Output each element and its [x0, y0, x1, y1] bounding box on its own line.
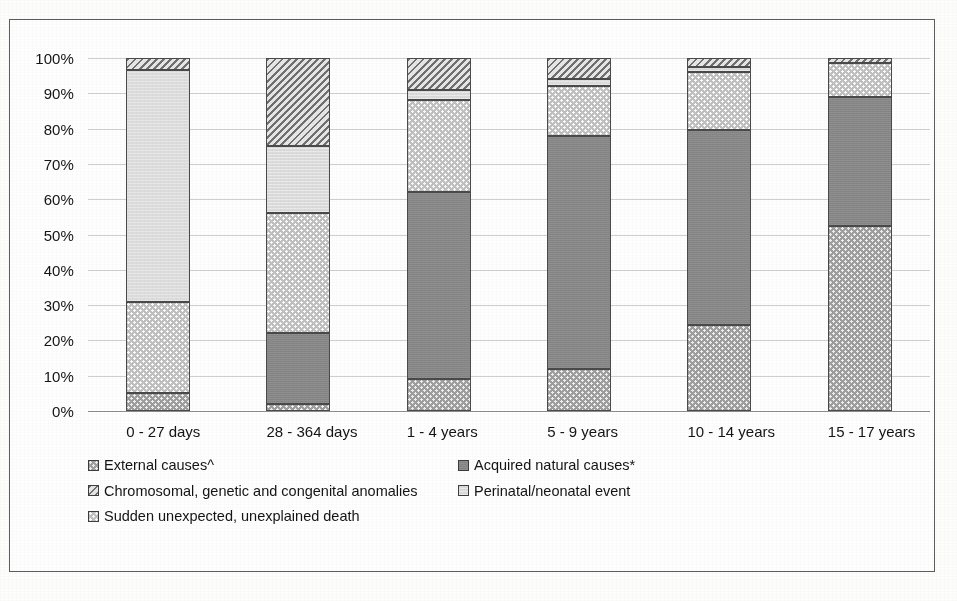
legend-item[interactable]: External causes^ — [88, 458, 458, 473]
legend-item[interactable]: Acquired natural causes* — [458, 458, 635, 473]
bar-segment-sudden[interactable] — [828, 63, 892, 97]
legend-row: Chromosomal, genetic and congenital anom… — [88, 484, 888, 499]
bar-stack — [126, 58, 190, 411]
bar-segment-perinatal[interactable] — [266, 146, 330, 213]
legend-item[interactable]: Chromosomal, genetic and congenital anom… — [88, 484, 458, 499]
bar-segment-sudden[interactable] — [266, 213, 330, 333]
bar-segment-sudden[interactable] — [687, 72, 751, 130]
legend-label: Perinatal/neonatal event — [474, 484, 630, 499]
bar-stack — [266, 58, 330, 411]
bar-segment-perinatal[interactable] — [547, 79, 611, 86]
x-axis-tick-label: 0 - 27 days — [126, 423, 190, 440]
y-axis-tick-label: 60% — [44, 191, 74, 208]
legend-label: Acquired natural causes* — [474, 458, 635, 473]
y-axis-tick-label: 20% — [44, 332, 74, 349]
y-axis-tick-label: 0% — [52, 403, 74, 420]
y-axis: 0%10%20%30%40%50%60%70%80%90%100% — [10, 58, 82, 411]
bar-segment-sudden[interactable] — [407, 100, 471, 192]
legend-row: Sudden unexpected, unexplained death — [88, 509, 888, 524]
legend-label: External causes^ — [104, 458, 214, 473]
bar-segment-acquired[interactable] — [407, 192, 471, 379]
bar-column[interactable] — [547, 58, 611, 411]
y-axis-tick-label: 90% — [44, 85, 74, 102]
bar-stack — [407, 58, 471, 411]
bar-segment-perinatal[interactable] — [687, 67, 751, 72]
x-axis-tick-label: 1 - 4 years — [407, 423, 471, 440]
chart-legend: External causes^Acquired natural causes*… — [88, 458, 888, 535]
bar-segment-acquired[interactable] — [266, 333, 330, 404]
bar-segment-sudden[interactable] — [126, 302, 190, 394]
bar-segment-chromosomal[interactable] — [687, 58, 751, 67]
x-axis-tick-label: 28 - 364 days — [266, 423, 330, 440]
bar-segment-sudden[interactable] — [547, 86, 611, 135]
bar-segment-external[interactable] — [407, 379, 471, 411]
legend-item[interactable]: Sudden unexpected, unexplained death — [88, 509, 458, 524]
bar-segment-acquired[interactable] — [828, 97, 892, 226]
y-axis-tick-label: 30% — [44, 297, 74, 314]
legend-swatch-perinatal-icon — [458, 485, 469, 496]
bar-segment-chromosomal[interactable] — [266, 58, 330, 146]
bar-column[interactable] — [407, 58, 471, 411]
bar-column[interactable] — [828, 58, 892, 411]
x-axis-tick-label: 10 - 14 years — [687, 423, 751, 440]
bar-segment-chromosomal[interactable] — [407, 58, 471, 90]
bar-segment-external[interactable] — [266, 404, 330, 411]
bar-segment-acquired[interactable] — [687, 130, 751, 324]
bar-segment-chromosomal[interactable] — [126, 58, 190, 70]
legend-label: Chromosomal, genetic and congenital anom… — [104, 484, 418, 499]
bar-segment-external[interactable] — [687, 325, 751, 411]
y-axis-tick-label: 80% — [44, 120, 74, 137]
legend-swatch-acquired-icon — [458, 460, 469, 471]
y-axis-tick-label: 100% — [35, 50, 74, 67]
bar-segment-external[interactable] — [126, 393, 190, 411]
bars-layer — [88, 58, 930, 411]
chart-frame: 0%10%20%30%40%50%60%70%80%90%100% 0 - 27… — [9, 19, 935, 572]
bar-segment-chromosomal[interactable] — [547, 58, 611, 79]
y-axis-tick-label: 40% — [44, 261, 74, 278]
plot-area — [88, 58, 930, 411]
legend-item[interactable]: Perinatal/neonatal event — [458, 484, 630, 499]
bar-stack — [547, 58, 611, 411]
legend-row: External causes^Acquired natural causes* — [88, 458, 888, 473]
bar-segment-acquired[interactable] — [547, 136, 611, 369]
bar-segment-perinatal[interactable] — [407, 90, 471, 101]
x-axis-tick-label: 15 - 17 years — [828, 423, 892, 440]
gridline — [88, 411, 930, 412]
bar-segment-external[interactable] — [547, 369, 611, 411]
bar-segment-external[interactable] — [828, 226, 892, 411]
bar-stack — [687, 58, 751, 411]
legend-swatch-sudden-icon — [88, 511, 99, 522]
legend-swatch-chromosomal-icon — [88, 485, 99, 496]
bar-column[interactable] — [126, 58, 190, 411]
y-axis-tick-label: 70% — [44, 155, 74, 172]
bar-segment-chromosomal[interactable] — [828, 58, 892, 63]
bar-stack — [828, 58, 892, 411]
legend-swatch-external-icon — [88, 460, 99, 471]
x-axis-tick-label: 5 - 9 years — [547, 423, 611, 440]
bar-segment-perinatal[interactable] — [126, 70, 190, 301]
y-axis-tick-label: 10% — [44, 367, 74, 384]
bar-column[interactable] — [687, 58, 751, 411]
bar-column[interactable] — [266, 58, 330, 411]
y-axis-tick-label: 50% — [44, 226, 74, 243]
x-axis: 0 - 27 days28 - 364 days1 - 4 years5 - 9… — [88, 418, 930, 444]
legend-label: Sudden unexpected, unexplained death — [104, 509, 360, 524]
